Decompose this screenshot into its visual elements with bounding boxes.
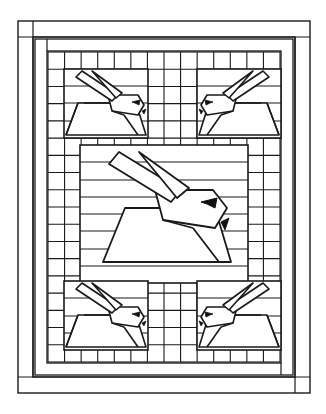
quilt-pattern-diagram: Rabbit Quilt Block Line Drawing Black an… [0,0,326,414]
quilt-artwork [0,0,326,414]
